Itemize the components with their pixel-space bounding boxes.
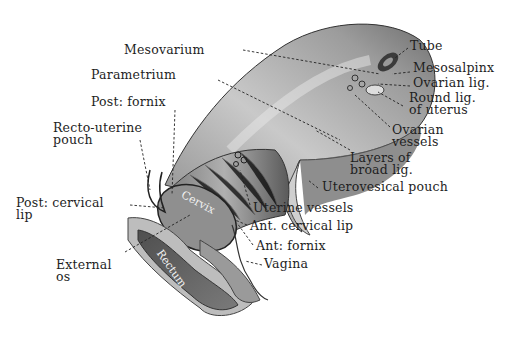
tube-label: Tube (410, 40, 443, 52)
round-lig-label-2: of uterus (409, 104, 468, 116)
external-os-label-2: os (56, 271, 70, 283)
anatomy-figure: Cervix Rectum Mesovarium Parametrium Pos… (0, 0, 530, 338)
vagina-label: Vagina (264, 258, 308, 270)
mesosalpinx-label: Mesosalpinx (413, 62, 494, 74)
uterus-illustration (0, 0, 530, 338)
ovarian-vessels-label-2: vessels (392, 136, 439, 148)
recto-uterine-pouch-label-2: pouch (53, 134, 93, 146)
parametrium-label: Parametrium (91, 69, 176, 81)
mesovarium-label: Mesovarium (124, 44, 205, 56)
uterine-vessels-label: Uterine vessels (253, 202, 353, 214)
uterovesical-pouch-label: Uterovesical pouch (322, 181, 448, 193)
post-fornix-label: Post: fornix (91, 96, 166, 108)
ant-cervical-lip-label: Ant. cervical lip (250, 220, 353, 232)
ovarian-lig-label: Ovarian lig. (413, 77, 490, 89)
post-cervical-lip-label-2: lip (16, 209, 33, 221)
ant-fornix-label: Ant: fornix (256, 240, 326, 252)
layers-broad-lig-label-2: broad lig. (350, 164, 413, 176)
